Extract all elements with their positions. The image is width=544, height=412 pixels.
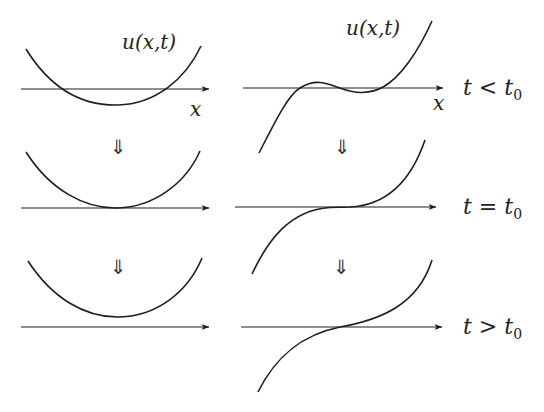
- relation-symbol: =: [479, 194, 497, 219]
- t0-symbol: t: [504, 75, 513, 100]
- function-label-text: u(x,t): [346, 16, 400, 40]
- right-row-2: [235, 140, 436, 274]
- cubic-three-roots: [259, 21, 432, 153]
- cubic-single-root: [258, 260, 432, 392]
- parabola-double-root: [26, 151, 200, 208]
- t-symbol: t: [463, 194, 472, 219]
- function-label-right: u(x,t): [346, 18, 400, 38]
- t-symbol: t: [463, 314, 472, 339]
- t0-subscript: 0: [513, 87, 522, 103]
- parabola-two-roots: [26, 46, 201, 105]
- time-label-after: t > t0: [463, 316, 522, 341]
- relation-symbol: <: [479, 75, 497, 100]
- diagram-canvas: u(x,t) x u(x,t) x t < t0 t = t0 t > t0 ⇓…: [0, 0, 544, 412]
- double-down-arrow-icon: ⇓: [334, 137, 351, 157]
- double-down-arrow-icon: ⇓: [110, 257, 127, 277]
- axis-label-x-right: x: [433, 93, 444, 113]
- axis-label-text: x: [433, 91, 444, 115]
- left-row-2: [21, 151, 209, 208]
- t0-subscript: 0: [513, 206, 522, 222]
- right-row-1: [243, 21, 443, 153]
- relation-symbol: >: [479, 314, 497, 339]
- t0-symbol: t: [504, 314, 513, 339]
- axis-label-x-left: x: [190, 99, 201, 119]
- right-row-3: [241, 260, 442, 392]
- left-row-1: [21, 46, 209, 105]
- axis-label-text: x: [190, 97, 201, 121]
- t0-symbol: t: [504, 194, 513, 219]
- t-symbol: t: [463, 75, 472, 100]
- double-down-arrow-icon: ⇓: [110, 137, 127, 157]
- time-label-before: t < t0: [463, 77, 522, 102]
- function-label-text: u(x,t): [122, 30, 176, 54]
- time-label-critical: t = t0: [463, 196, 522, 221]
- t0-subscript: 0: [513, 326, 522, 342]
- double-down-arrow-icon: ⇓: [333, 257, 350, 277]
- function-label-left: u(x,t): [122, 32, 176, 52]
